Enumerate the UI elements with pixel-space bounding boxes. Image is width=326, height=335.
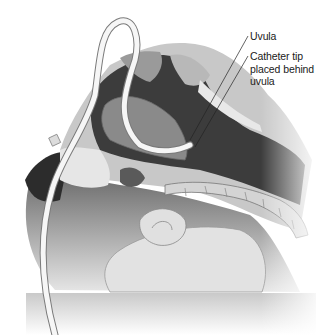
- label-catheter-tip: Catheter tip placed behind uvula: [250, 50, 320, 88]
- label-catheter-line3: uvula: [250, 75, 320, 88]
- label-catheter-line1: Catheter tip: [250, 50, 320, 63]
- label-catheter-line2: placed behind: [250, 63, 320, 76]
- label-uvula: Uvula: [250, 30, 276, 43]
